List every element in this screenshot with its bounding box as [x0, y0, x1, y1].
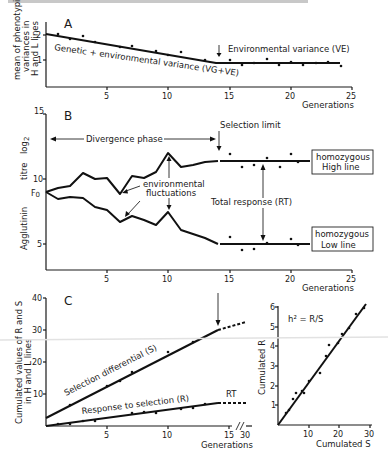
- inset-xtick-10: 10: [303, 430, 313, 439]
- panel-c-ytick-30: 30: [32, 326, 42, 335]
- panel-b-ytick-15: 15: [34, 107, 44, 116]
- panel-a-xtick-20: 20: [285, 92, 295, 101]
- box-homozygous-low: homozygous Low line: [312, 227, 373, 251]
- panel-a-note-env: Environmental variance (VE): [228, 44, 350, 54]
- panel-b-ytick-10: 10: [33, 175, 43, 184]
- panel-c-ytick-40: 40: [32, 294, 42, 303]
- panel-b-ylabel-titre: titre: [19, 162, 29, 180]
- divergence-arrow-right: [210, 137, 216, 142]
- selection-differential-label: Selection differential (S): [62, 342, 158, 398]
- panel-a-ylabel: mean of phenotypic variances in H and L …: [12, 0, 40, 80]
- svg-text:High line: High line: [322, 162, 360, 172]
- panel-b-total-response: Total response (RT): [210, 197, 292, 207]
- figure-canvas: A 2 1 5 10 15 20 25 Generations mean of …: [0, 0, 388, 458]
- low-line-series: [46, 192, 218, 244]
- panel-b-xlabel: Generations: [302, 283, 354, 293]
- panel-b-ytick-5: 5: [37, 240, 42, 249]
- inset-ytick-1: 1: [271, 401, 276, 410]
- panel-a-xtick-15: 15: [224, 92, 234, 101]
- panel-b-xtick-20: 20: [285, 275, 295, 284]
- inset-ytick-2: 2: [270, 382, 275, 391]
- rt-label: RT: [226, 389, 237, 399]
- panel-c-xlabel: Generations: [201, 440, 253, 450]
- panel-c-ytick-10: 10: [33, 390, 43, 399]
- panel-b-ylabel-agglutinin: Agglutinin: [19, 207, 29, 250]
- panel-b-ylabel-log: log2: [19, 137, 31, 154]
- inset-ytick-5: 5: [270, 323, 275, 332]
- inset-ylabel: Cumulated R: [257, 340, 267, 395]
- inset-ytick-6: 6: [270, 303, 275, 312]
- panel-b-f0-label: F0: [31, 189, 40, 199]
- panel-b: B 15 10 5 F0 5 10 15 20 25 Generations A…: [19, 107, 373, 293]
- divergence-arrow-left: [50, 137, 56, 142]
- cropped-header-text: [8, 0, 308, 3]
- panel-a: A 2 1 5 10 15 20 25 Generations mean of …: [12, 0, 356, 110]
- inset-xtick-20: 20: [333, 430, 343, 439]
- scan-artifact: [0, 337, 388, 340]
- panel-c-ylabel: Cumulated values of R and S in H and L l…: [14, 301, 33, 424]
- panel-b-env-fluct-2: fluctuations: [146, 188, 197, 198]
- box-homozygous-high: homozygous High line: [312, 150, 373, 174]
- inset-ytick-4: 4: [270, 342, 275, 351]
- inset-xlabel: Cumulated S: [316, 439, 371, 449]
- response-to-selection-label: Response to selection (R): [81, 393, 190, 416]
- panel-a-note-genetic-env: Genetic + environmental variance (VG+VE): [54, 42, 240, 78]
- panel-c: C 40 30 20 10 5 10 15 30 Generations Cum…: [14, 293, 253, 450]
- panel-b-selection-limit: Selection limit: [220, 120, 281, 130]
- panel-c-xtick-30: 30: [240, 431, 250, 440]
- panel-b-label: B: [64, 109, 72, 123]
- inset-xtick-30: 30: [364, 430, 374, 439]
- svg-text:H and L lines: H and L lines: [30, 20, 40, 76]
- panel-a-xtick-10: 10: [162, 92, 172, 101]
- panel-b-xtick-5: 5: [104, 275, 109, 284]
- panel-c-xtick-15: 15: [224, 431, 234, 440]
- panel-c-label: C: [64, 294, 72, 308]
- panel-b-divergence-phase: Divergence phase: [86, 134, 163, 144]
- inset-formula: h² = R/S: [288, 314, 324, 324]
- panel-a-xlabel: Generations: [302, 100, 354, 110]
- panel-b-xtick-15: 15: [224, 275, 234, 284]
- panel-c-inset-scatter: 6 5 4 3 2 1 10 20 30 Cumulated S Cumulat…: [257, 303, 374, 449]
- svg-text:homozygous: homozygous: [315, 229, 370, 239]
- svg-text:in H and L lines: in H and L lines: [23, 338, 33, 404]
- panel-a-xtick-5: 5: [104, 92, 109, 101]
- inset-ytick-3: 3: [270, 362, 275, 371]
- svg-text:homozygous: homozygous: [316, 152, 371, 162]
- panel-c-xtick-10: 10: [162, 431, 172, 440]
- panel-b-xtick-10: 10: [162, 275, 172, 284]
- panel-a-label: A: [64, 17, 73, 31]
- svg-text:Low line: Low line: [321, 240, 356, 250]
- panel-c-xtick-5: 5: [104, 431, 109, 440]
- panel-c-ytick-20: 20: [32, 358, 42, 367]
